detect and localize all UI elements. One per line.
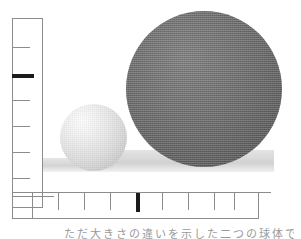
vertical-ruler-tick <box>12 178 30 179</box>
horizontal-ruler-tick <box>214 192 215 210</box>
small-sphere-texture <box>60 104 127 171</box>
vertical-ruler-tick <box>12 196 54 197</box>
horizontal-ruler-tick <box>136 192 140 212</box>
large-sphere-texture <box>126 11 282 167</box>
horizontal-ruler-tick <box>188 192 189 210</box>
vertical-ruler-tick <box>12 126 30 127</box>
horizontal-ruler-tick <box>58 192 59 210</box>
vertical-ruler-tick <box>12 47 30 48</box>
horizontal-ruler-tick <box>84 192 85 210</box>
horizontal-ruler-tick <box>110 192 111 210</box>
small-sphere <box>60 104 127 171</box>
horizontal-ruler-baseline <box>22 192 271 193</box>
horizontal-ruler-tick <box>162 192 163 210</box>
horizontal-ruler-tick <box>32 192 33 218</box>
vertical-ruler-tick <box>12 152 30 153</box>
figure-canvas: ただ大きさの違いを示した二つの球体である <box>0 0 301 239</box>
large-sphere <box>126 11 282 167</box>
vertical-ruler-tick <box>12 74 34 78</box>
horizontal-ruler-tick <box>234 192 235 210</box>
vertical-ruler-tick <box>12 100 30 101</box>
figure-caption: ただ大きさの違いを示した二つの球体である <box>64 228 294 239</box>
